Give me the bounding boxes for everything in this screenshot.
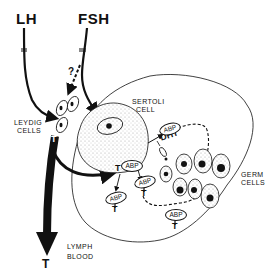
sertoli-label-1: SERTOLI xyxy=(132,98,165,106)
testosterone-abp-2: T xyxy=(141,189,147,198)
testosterone-leydig: T xyxy=(51,135,57,144)
testosterone-abp-3: T xyxy=(172,222,178,231)
abp-lumen-3: ABP xyxy=(165,209,187,221)
diagram-canvas xyxy=(0,0,273,272)
leydig-label-2: CELLS xyxy=(17,127,41,135)
germ-label-2: CELLS xyxy=(241,179,265,187)
sertoli-label-2: CELL xyxy=(136,106,155,114)
lh-label: LH xyxy=(16,11,37,26)
germ-cells xyxy=(160,149,230,208)
testosterone-blood: T xyxy=(42,258,49,270)
spermatid xyxy=(157,141,168,161)
testosterone-tubule: T xyxy=(115,164,121,173)
germ-label-1: GERM xyxy=(241,171,264,179)
blood-label: BLOOD xyxy=(67,253,94,261)
testosterone-abp-1: T xyxy=(112,205,118,214)
leydig-cells xyxy=(54,95,81,135)
abp-sertoli: ABP xyxy=(121,160,143,172)
fsh-arrow xyxy=(82,28,96,112)
question-mark: ? xyxy=(68,67,74,77)
lh-arrow xyxy=(24,28,55,118)
leydig-label-1: LEYDIG xyxy=(14,119,42,127)
lymph-label: LYMPH xyxy=(67,243,93,251)
fsh-label: FSH xyxy=(78,11,110,26)
